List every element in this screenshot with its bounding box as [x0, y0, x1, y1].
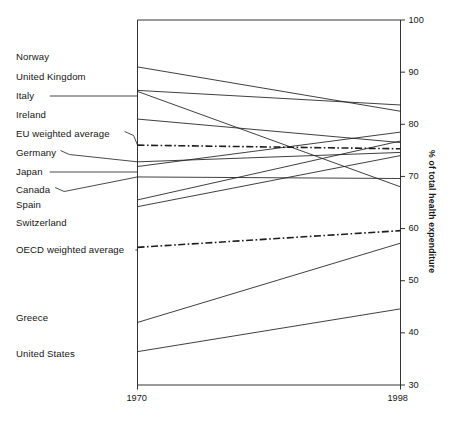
- series-line-greece: [138, 243, 401, 322]
- series-label-united-states: United States: [16, 349, 75, 359]
- series-line-eu-weighted-average: [138, 145, 401, 149]
- series-line-switzerland: [138, 156, 401, 207]
- y-tick-label-50: 50: [409, 275, 419, 285]
- y-tick-label-90: 90: [409, 67, 419, 77]
- series-label-spain: Spain: [16, 200, 41, 210]
- series-lines: [138, 67, 401, 352]
- series-label-norway: Norway: [16, 52, 49, 62]
- y-tick-label-40: 40: [409, 327, 419, 337]
- series-line-japan: [138, 132, 401, 166]
- chart-figure: NorwayUnited KingdomItalyIrelandEU weigh…: [0, 0, 450, 425]
- slope-chart-canvas: [0, 0, 450, 425]
- series-line-united-kingdom: [138, 90, 401, 105]
- series-line-norway: [138, 67, 401, 111]
- series-label-greece: Greece: [16, 313, 48, 323]
- series-line-oecd-weighted-average: [138, 231, 401, 248]
- series-label-oecd-weighted-average: OECD weighted average: [16, 245, 124, 255]
- y-tick-label-100: 100: [409, 15, 424, 25]
- series-line-united-states: [138, 309, 401, 352]
- y-tick-label-60: 60: [409, 223, 419, 233]
- series-label-italy: Italy: [16, 91, 34, 101]
- series-label-germany: Germany: [16, 148, 56, 158]
- series-label-ireland: Ireland: [16, 110, 46, 120]
- y-tick-label-70: 70: [409, 171, 419, 181]
- series-line-canada: [138, 177, 401, 179]
- y-tick-label-30: 30: [409, 380, 419, 390]
- series-label-canada: Canada: [16, 185, 50, 195]
- x-tick-label-start: 1970: [127, 393, 147, 403]
- series-line-spain: [138, 141, 401, 200]
- y-axis-title: % of total health expenditure: [427, 150, 437, 273]
- axis-ticks: [138, 20, 406, 390]
- y-tick-label-80: 80: [409, 119, 419, 129]
- series-label-eu-weighted-average: EU weighted average: [16, 129, 110, 139]
- series-line-germany: [138, 152, 401, 161]
- x-tick-label-end: 1998: [388, 393, 408, 403]
- leader-line-eu-weighted-average: [125, 132, 138, 146]
- leader-line-germany: [60, 151, 137, 162]
- leader-line-canada: [55, 177, 137, 192]
- series-label-japan: Japan: [16, 167, 43, 177]
- series-label-united-kingdom: United Kingdom: [16, 72, 86, 82]
- series-label-switzerland: Switzerland: [16, 218, 67, 228]
